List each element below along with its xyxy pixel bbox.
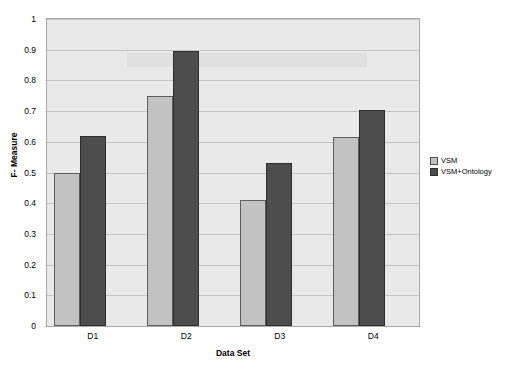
y-tick-label: 1 [31, 14, 36, 24]
x-tick-label: D1 [53, 331, 133, 345]
legend-label: VSM+Ontology [441, 167, 492, 176]
y-tick-label: 0.3 [24, 229, 36, 239]
y-tick-label: 0.6 [24, 137, 36, 147]
y-tick-label: 0.4 [24, 198, 36, 208]
bar-d2-vsm [147, 96, 173, 326]
y-axis-title: F- Measure [9, 115, 19, 195]
y-tick-label: 0 [31, 321, 36, 331]
x-axis-title: Data Set [46, 348, 420, 358]
y-tick-label: 0.7 [24, 106, 36, 116]
bar-d1-vsm [54, 173, 80, 327]
bar-group [147, 19, 227, 326]
bar-chart-figure: 10.90.80.70.60.50.40.30.20.10 F- Measure… [0, 0, 513, 373]
bar-d3-vsm [240, 200, 266, 326]
y-tick-label: 0.8 [24, 75, 36, 85]
bar-d4-vsm [333, 137, 359, 326]
x-axis-ticks: D1D2D3D4 [46, 331, 420, 345]
x-tick-label: D3 [240, 331, 320, 345]
x-tick-label: D2 [146, 331, 226, 345]
grid-line [47, 326, 419, 327]
bar-d2-vsm-ontology [173, 51, 199, 326]
legend-entry: VSM+Ontology [430, 167, 510, 176]
bar-d4-vsm-ontology [359, 110, 385, 326]
bar-group [54, 19, 134, 326]
bar-group [333, 19, 413, 326]
bar-d3-vsm-ontology [266, 163, 292, 326]
bar-group [240, 19, 320, 326]
bar-d1-vsm-ontology [80, 136, 106, 326]
y-tick-label: 0.5 [24, 168, 36, 178]
y-tick-label: 0.2 [24, 260, 36, 270]
x-tick-label: D4 [333, 331, 413, 345]
bar-groups [47, 19, 419, 326]
legend-swatch-icon [430, 157, 438, 165]
chart-legend: VSMVSM+Ontology [430, 156, 510, 178]
legend-entry: VSM [430, 156, 510, 165]
y-axis-ticks: 10.90.80.70.60.50.40.30.20.10 [0, 18, 42, 327]
plot-area [46, 18, 420, 327]
legend-swatch-icon [430, 168, 438, 176]
y-tick-label: 0.1 [24, 290, 36, 300]
legend-label: VSM [441, 156, 457, 165]
y-tick-label: 0.9 [24, 45, 36, 55]
